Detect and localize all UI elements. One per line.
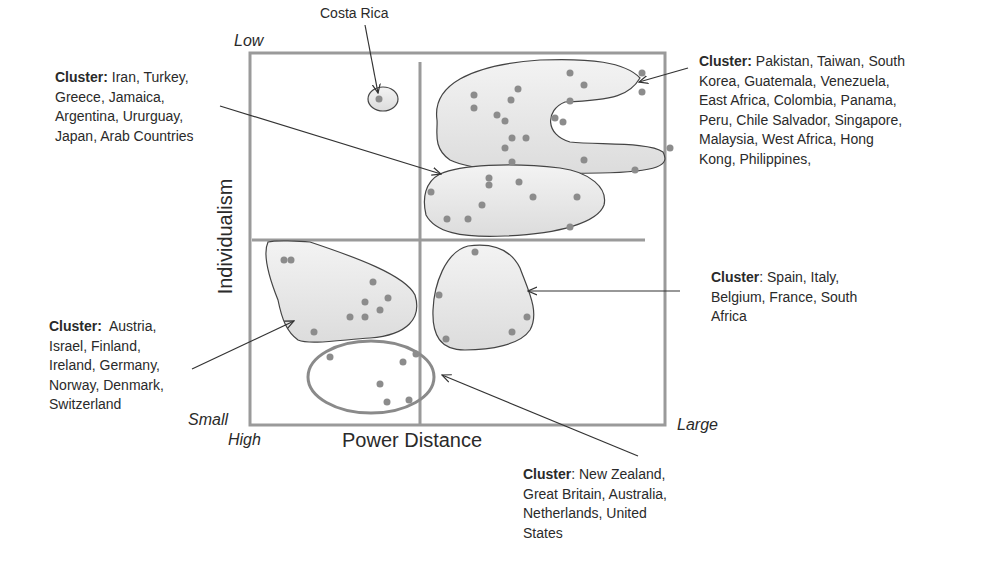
cluster-line: Norway, Denmark, xyxy=(49,376,164,396)
country-dot xyxy=(581,82,588,89)
cluster-prefix: Cluster xyxy=(711,269,759,285)
country-dot xyxy=(406,397,413,404)
country-dot xyxy=(502,145,509,152)
cluster-line: Korea, Guatemala, Venezuela, xyxy=(699,72,905,92)
cluster-shape-austria xyxy=(266,241,417,342)
country-dot xyxy=(362,314,369,321)
country-dot xyxy=(486,182,493,189)
country-dot xyxy=(413,351,420,358)
country-dot xyxy=(479,202,486,209)
country-dot xyxy=(444,216,451,223)
cluster-line: Israel, Finland, xyxy=(49,337,164,357)
cluster-line: Japan, Arab Countries xyxy=(55,127,194,147)
y-axis-title: Individualism xyxy=(214,172,237,302)
country-dot xyxy=(377,381,384,388)
cluster-line: Malaysia, West Africa, Hong xyxy=(699,130,905,150)
country-dot xyxy=(436,292,443,299)
cluster-line: Kong, Philippines, xyxy=(699,150,905,170)
country-dot xyxy=(524,314,531,321)
country-dot xyxy=(516,179,523,186)
cluster-shape-pakistan xyxy=(437,60,665,174)
arrow-iran-cluster xyxy=(220,106,441,174)
spain-cluster-label: Cluster: Spain, Italy, Belgium, France, … xyxy=(711,268,857,327)
country-dot xyxy=(471,92,478,99)
cluster-prefix: Cluster: xyxy=(55,69,108,85)
country-dot xyxy=(567,224,574,231)
cluster-line: Africa xyxy=(711,307,857,327)
costa-rica-label: Costa Rica xyxy=(320,4,388,24)
cluster-line: States xyxy=(523,524,667,544)
country-dot xyxy=(377,307,384,314)
x-axis-right-label: Large xyxy=(677,416,718,434)
country-dot xyxy=(385,295,392,302)
country-dot xyxy=(362,299,369,306)
country-dot xyxy=(471,105,478,112)
cluster-line: Great Britain, Australia, xyxy=(523,485,667,505)
iran-cluster-label: Cluster: Iran, Turkey, Greece, Jamaica, … xyxy=(55,68,194,146)
x-axis-title: Power Distance xyxy=(342,429,482,452)
country-dot xyxy=(311,329,318,336)
country-dot xyxy=(400,359,407,366)
arrow-austria-cluster xyxy=(192,321,294,369)
cluster-shape-costa-rica xyxy=(368,87,398,111)
country-dot xyxy=(667,145,674,152)
anglo-cluster-label: Cluster: New Zealand, Great Britain, Aus… xyxy=(523,465,667,543)
country-dot xyxy=(376,96,383,103)
arrow-costa-rica xyxy=(365,25,378,93)
country-dot xyxy=(515,86,522,93)
country-dot xyxy=(509,329,516,336)
cluster-line: Pakistan, Taiwan, South xyxy=(756,53,905,69)
cluster-line: Austria, xyxy=(102,318,156,334)
country-dot xyxy=(327,354,334,361)
cluster-prefix: Cluster xyxy=(523,466,571,482)
x-axis-left-label: High xyxy=(228,431,261,449)
country-dot xyxy=(502,118,509,125)
country-dot xyxy=(523,135,530,142)
country-dot xyxy=(509,135,516,142)
country-dot xyxy=(639,70,646,77)
austria-cluster-label: Cluster: Austria, Israel, Finland, Irela… xyxy=(49,317,164,415)
cluster-line: Ireland, Germany, xyxy=(49,356,164,376)
country-dot xyxy=(560,119,567,126)
cluster-prefix: Cluster: xyxy=(49,318,102,334)
country-dot xyxy=(347,314,354,321)
country-dot xyxy=(530,194,537,201)
cluster-line: Netherlands, United xyxy=(523,504,667,524)
country-dot xyxy=(567,98,574,105)
country-dot xyxy=(567,70,574,77)
country-dot xyxy=(486,175,493,182)
cluster-line: Argentina, Ururguay, xyxy=(55,107,194,127)
country-dot xyxy=(428,189,435,196)
cluster-prefix: Cluster: xyxy=(699,53,752,69)
country-dot xyxy=(443,336,450,343)
cluster-line: : Spain, Italy, xyxy=(759,269,839,285)
country-dot xyxy=(494,112,501,119)
country-dot xyxy=(509,159,516,166)
cluster-line: Peru, Chile Salvador, Singapore, xyxy=(699,111,905,131)
country-dot xyxy=(472,249,479,256)
country-dot xyxy=(639,89,646,96)
cluster-line: : New Zealand, xyxy=(571,466,665,482)
cluster-line: Belgium, France, South xyxy=(711,288,857,308)
cluster-shape-iran xyxy=(424,165,604,236)
y-axis-bottom-label: Small xyxy=(188,411,228,429)
country-dot xyxy=(632,167,639,174)
cluster-line: Greece, Jamaica, xyxy=(55,88,194,108)
cluster-line: Iran, Turkey, xyxy=(112,69,189,85)
country-dot xyxy=(384,399,391,406)
country-dot xyxy=(281,257,288,264)
country-dot xyxy=(288,257,295,264)
country-dot xyxy=(370,279,377,286)
country-dot xyxy=(574,194,581,201)
country-dot xyxy=(465,216,472,223)
country-dot xyxy=(508,97,515,104)
cluster-line: East Africa, Colombia, Panama, xyxy=(699,91,905,111)
pakistan-cluster-label: Cluster: Pakistan, Taiwan, South Korea, … xyxy=(699,52,905,169)
y-axis-top-label: Low xyxy=(234,32,263,50)
country-dot xyxy=(581,157,588,164)
cluster-shape-spain xyxy=(433,245,534,350)
cluster-line: Switzerland xyxy=(49,395,164,415)
country-dot xyxy=(552,115,559,122)
